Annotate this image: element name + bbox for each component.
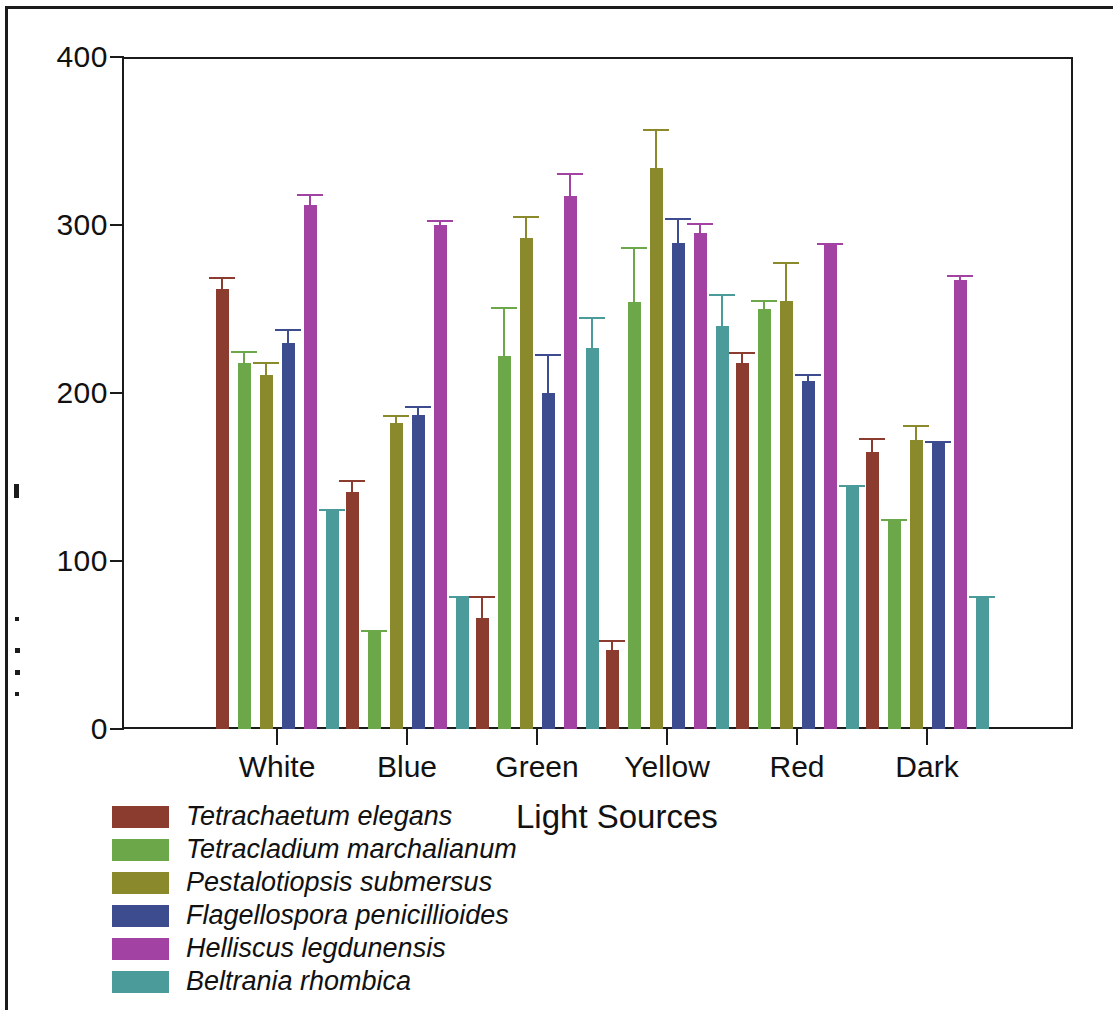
bar <box>476 618 489 729</box>
legend-color-swatch <box>112 839 169 861</box>
x-axis-tick-label: White <box>239 750 316 784</box>
error-bar-cap <box>209 277 235 279</box>
legend-item-label: Beltrania rhombica <box>186 966 411 997</box>
error-bar-line <box>611 642 613 650</box>
error-bar-line <box>547 356 549 393</box>
error-bar-cap <box>535 354 561 356</box>
y-axis-tick-label: 0 <box>91 712 108 746</box>
figure-canvas: 4003002001000 WhiteBlueGreenYellowRedDar… <box>0 0 1116 1011</box>
y-axis-tick-label: 100 <box>56 544 108 578</box>
error-bar-cap <box>339 480 365 482</box>
legend-item: Beltrania rhombica <box>112 965 517 998</box>
y-axis-tick-label: 200 <box>56 376 108 410</box>
legend-item-label: Flagellospora penicillioides <box>186 900 509 931</box>
bar <box>780 301 793 729</box>
bar <box>628 302 641 729</box>
x-axis-tick-label: Red <box>769 750 824 784</box>
legend-color-swatch <box>112 905 169 927</box>
error-bar-cap <box>599 640 625 642</box>
error-bar-line <box>915 427 917 440</box>
bar <box>716 326 729 729</box>
error-bar-cap <box>253 362 279 364</box>
legend-item-label: Tetrachaetum elegans <box>186 801 452 832</box>
y-axis-tick-label: 400 <box>56 40 108 74</box>
bar <box>564 196 577 729</box>
error-bar-cap <box>621 247 647 249</box>
error-bar-line <box>417 408 419 415</box>
legend-item: Flagellospora penicillioides <box>112 899 517 932</box>
x-axis-tick-label: Yellow <box>624 750 710 784</box>
bar <box>650 168 663 729</box>
legend-item: Tetracladium marchalianum <box>112 833 517 866</box>
bar <box>694 233 707 729</box>
error-bar-line <box>807 376 809 381</box>
bar <box>736 363 749 729</box>
bar <box>672 243 685 729</box>
y-axis-tick-labels: 4003002001000 <box>0 0 108 1011</box>
bar <box>542 393 555 729</box>
x-axis-tick-mark <box>666 729 668 745</box>
error-bar-line <box>655 131 657 168</box>
error-bar-cap <box>643 129 669 131</box>
error-bar-cap <box>405 406 431 408</box>
legend-item-label: Pestalotiopsis submersus <box>186 867 492 898</box>
error-bar-line <box>871 440 873 452</box>
error-bar-cap <box>557 173 583 175</box>
error-bar-line <box>439 222 441 225</box>
error-bar-cap <box>275 329 301 331</box>
legend-item: Helliscus legdunensis <box>112 932 517 965</box>
bar <box>434 225 447 729</box>
bar <box>954 280 967 729</box>
x-axis-tick-mark <box>276 729 278 745</box>
error-bar-cap <box>729 352 755 354</box>
error-bar-line <box>699 225 701 233</box>
bar <box>368 632 381 729</box>
error-bar-cap <box>361 630 387 632</box>
error-bar-cap <box>491 307 517 309</box>
bar <box>932 443 945 729</box>
error-bar-line <box>395 417 397 424</box>
x-axis-tick-mark <box>796 729 798 745</box>
error-bar-cap <box>579 317 605 319</box>
error-bar-cap <box>687 223 713 225</box>
error-bar-cap <box>925 441 951 443</box>
legend-item: Pestalotiopsis submersus <box>112 866 517 899</box>
error-bar-line <box>243 353 245 363</box>
chart-legend: Tetrachaetum elegansTetracladium marchal… <box>112 800 517 998</box>
error-bar-line <box>351 482 353 492</box>
legend-item: Tetrachaetum elegans <box>112 800 517 833</box>
plot-area <box>122 57 1073 729</box>
error-bar-line <box>633 249 635 303</box>
error-bar-cap <box>947 275 973 277</box>
legend-color-swatch <box>112 806 169 828</box>
bar <box>216 289 229 729</box>
x-axis-tick-mark <box>406 729 408 745</box>
error-bar-line <box>721 296 723 326</box>
bar <box>238 363 251 729</box>
error-bar-cap <box>427 220 453 222</box>
bar <box>326 511 339 729</box>
bar <box>520 238 533 729</box>
x-axis-tick-mark <box>536 729 538 745</box>
error-bar-line <box>591 319 593 348</box>
error-bar-line <box>287 331 289 343</box>
legend-color-swatch <box>112 971 169 993</box>
bar <box>282 343 295 729</box>
legend-item-label: Helliscus legdunensis <box>186 933 446 964</box>
error-bar-cap <box>795 374 821 376</box>
x-axis-tick-label: Dark <box>895 750 958 784</box>
bar <box>606 650 619 729</box>
x-axis-tick-mark <box>926 729 928 745</box>
error-bar-cap <box>231 351 257 353</box>
error-bar-line <box>677 220 679 244</box>
x-axis-title: Light Sources <box>516 798 718 836</box>
x-axis-tick-label: Green <box>495 750 578 784</box>
error-bar-cap <box>773 262 799 264</box>
error-bar-line <box>763 302 765 309</box>
error-bar-cap <box>513 216 539 218</box>
bar <box>846 487 859 729</box>
legend-color-swatch <box>112 938 169 960</box>
error-bar-line <box>221 279 223 289</box>
bar <box>456 598 469 729</box>
error-bar-cap <box>859 438 885 440</box>
